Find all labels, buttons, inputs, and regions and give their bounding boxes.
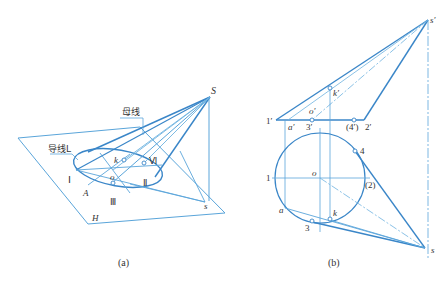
label-III: Ⅲ	[110, 197, 116, 207]
p3-top-marker	[310, 219, 314, 223]
k-top-marker	[328, 217, 332, 221]
label-VI: Ⅵ	[149, 156, 157, 166]
line-s-A	[130, 184, 205, 202]
label-o: o	[110, 172, 115, 182]
label-2-prime: 2′	[365, 122, 372, 132]
top-tangent-3	[312, 222, 425, 248]
label-3: 3	[305, 223, 310, 233]
front-axis	[312, 20, 428, 120]
label-4: 4	[360, 146, 365, 156]
label-a: a	[279, 205, 284, 215]
top-tangent-4	[355, 151, 425, 248]
figure-b-orthographic: s′ k′ o′ 1′ a′ 3′ (4′) 2′ 4 1 o (2) a k …	[266, 15, 437, 269]
front-generatrix-a	[288, 20, 428, 120]
label-S: S	[211, 85, 216, 96]
label-s: s	[431, 245, 435, 255]
front-contour-right	[364, 20, 428, 120]
label-o: o	[312, 168, 317, 178]
label-s-prime: s′	[430, 15, 437, 25]
label-k-prime: k′	[333, 88, 340, 98]
label-A: A	[82, 188, 89, 198]
p4-top-marker	[353, 149, 357, 153]
label-a-prime: a′	[288, 122, 296, 132]
label-3-prime: 3′	[306, 122, 313, 132]
label-o-prime: o′	[309, 106, 317, 116]
label-2: (2)	[365, 180, 376, 190]
label-1: 1	[266, 173, 271, 183]
caption-b: (b)	[328, 257, 340, 269]
label-s: s	[204, 201, 208, 211]
k-prime-marker	[328, 86, 332, 90]
line-s-tangent	[180, 151, 205, 202]
label-k: k	[333, 208, 338, 218]
label-k: k	[114, 155, 119, 165]
generatrix-VI	[144, 97, 210, 163]
label-4-prime: (4′)	[346, 122, 358, 132]
plane-h	[18, 127, 225, 224]
front-contour-left	[276, 20, 428, 120]
point-VI-marker	[142, 161, 146, 165]
label-generatrix: 母线	[122, 106, 140, 117]
label-H: H	[91, 213, 99, 223]
figure-a-pictorial: S 母线 导线L Ⅰ k Ⅵ o Ⅱ A Ⅲ s H (a)	[18, 85, 225, 269]
point-k-marker	[122, 158, 126, 162]
label-directrix: 导线L	[48, 143, 71, 154]
oblique-cone-projection-figure: S 母线 导线L Ⅰ k Ⅵ o Ⅱ A Ⅲ s H (a)	[0, 0, 446, 281]
label-I: Ⅰ	[68, 174, 71, 185]
label-1-prime: 1′	[266, 116, 273, 126]
label-II: Ⅱ	[143, 178, 147, 188]
top-line-k-s	[330, 220, 425, 248]
caption-a: (a)	[118, 257, 129, 269]
